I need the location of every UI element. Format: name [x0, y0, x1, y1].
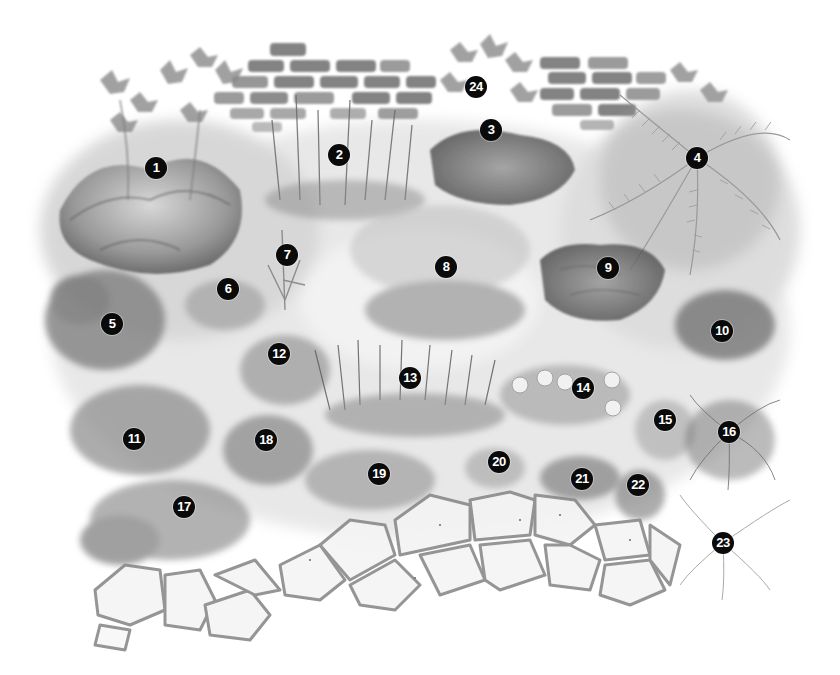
marker-3: 3 — [480, 119, 502, 141]
marker-12: 12 — [268, 343, 290, 365]
marker-17: 17 — [173, 496, 195, 518]
marker-16: 16 — [718, 421, 740, 443]
marker-1: 1 — [145, 157, 167, 179]
marker-15: 15 — [654, 409, 676, 431]
plant-13-base — [325, 393, 505, 437]
marker-6: 6 — [217, 278, 239, 300]
marker-7: 7 — [276, 244, 298, 266]
marker-23: 23 — [712, 532, 734, 554]
marker-21: 21 — [571, 468, 593, 490]
marker-8: 8 — [435, 256, 457, 278]
marker-20: 20 — [488, 451, 510, 473]
plant-4-wash — [600, 90, 780, 270]
plant-17 — [80, 480, 250, 565]
marker-4: 4 — [686, 147, 708, 169]
marker-24: 24 — [465, 76, 487, 98]
plant-23-fern — [680, 495, 790, 600]
marker-10: 10 — [711, 320, 733, 342]
plant-14-flowers — [500, 365, 630, 425]
brick-wall-left — [214, 43, 436, 132]
marker-14: 14 — [572, 377, 594, 399]
marker-19: 19 — [368, 463, 390, 485]
marker-22: 22 — [627, 474, 649, 496]
marker-13: 13 — [399, 367, 421, 389]
marker-2: 2 — [328, 144, 350, 166]
marker-5: 5 — [101, 313, 123, 335]
marker-9: 9 — [597, 257, 619, 279]
marker-11: 11 — [123, 428, 145, 450]
marker-18: 18 — [255, 429, 277, 451]
